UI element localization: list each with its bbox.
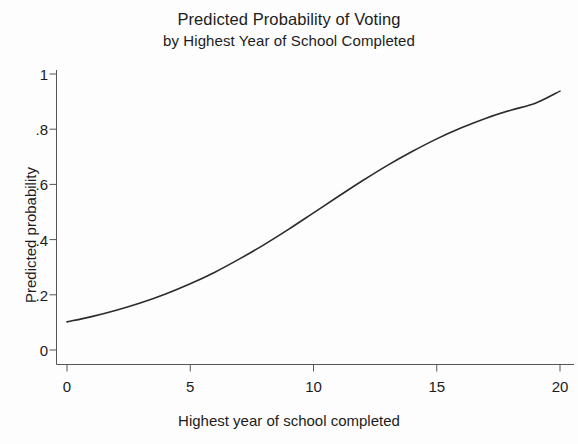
x-axis-tick-label: 10 [305,378,322,395]
y-axis-title: Predicted probability [22,120,39,350]
x-axis-tick-label: 20 [552,378,569,395]
x-axis-title: Highest year of school completed [0,412,578,429]
plot-area: 0.2.4.6.81 05101520 [0,0,578,444]
y-axis-ticks [50,74,57,350]
y-axis-tick-label: 1 [8,66,48,83]
x-axis-ticks [67,365,560,372]
chart-container: Predicted Probability of Voting by Highe… [0,0,578,444]
x-axis-tick-label: 0 [63,378,71,395]
x-axis-tick-label: 5 [186,378,194,395]
plot-svg [0,0,578,444]
x-axis-tick-label: 15 [428,378,445,395]
data-line-predicted-probability [67,91,560,322]
